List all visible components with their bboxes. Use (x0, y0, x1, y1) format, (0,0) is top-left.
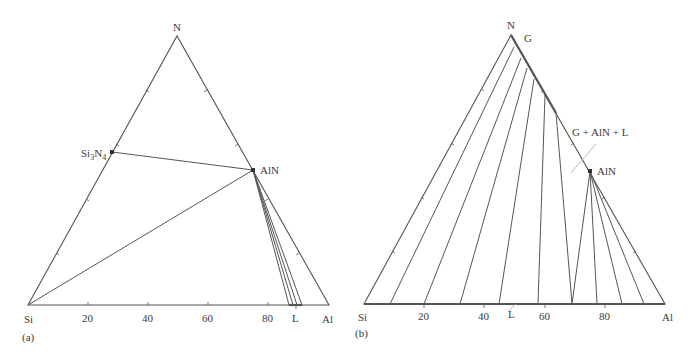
gas-label: G (524, 32, 532, 44)
tie-line-si-aln (28, 170, 253, 305)
axis-tick-label-40-a: 40 (142, 312, 154, 324)
axis-tick-label-60-a: 60 (202, 312, 214, 324)
axis-tick-label-20-b: 20 (418, 310, 430, 322)
axis-tick-label-80-b: 80 (599, 310, 611, 322)
tie-line-aln-l (253, 170, 293, 305)
ternary-diagrams: N Si Al 20 40 60 80 L Si3N4 AlN (a) (0, 0, 693, 354)
tie-line-si3n4-aln (112, 152, 253, 170)
vertex-label-n-b: N (507, 19, 515, 31)
tie-line-g-l (424, 58, 521, 304)
tick-right-a (296, 253, 299, 255)
aln-point-a (251, 168, 255, 172)
panel-caption-a: (a) (22, 331, 35, 344)
tick-right-a (204, 90, 207, 92)
vertex-label-si-a: Si (24, 313, 33, 325)
tick-right-a (265, 199, 268, 201)
liquid-label-b: L (508, 308, 515, 320)
axis-tick-label-60-b: 60 (539, 310, 551, 322)
panel-caption-b: (b) (355, 327, 368, 340)
panel-a: N Si Al 20 40 60 80 L Si3N4 AlN (a) (22, 21, 333, 344)
vertex-label-si-b: Si (358, 311, 367, 323)
tie-line-aln-l (572, 171, 590, 304)
panel-b: N G G + AlN + L AlN Si Al 20 40 60 80 L … (355, 19, 673, 340)
tie-line-g-l (556, 113, 572, 304)
three-phase-leader (571, 144, 596, 173)
tie-line-aln-l (590, 171, 597, 304)
tie-line-aln-l (253, 170, 289, 305)
si3n4-label: Si3N4 (81, 147, 106, 162)
vertex-label-al-b: Al (662, 311, 673, 323)
tie-line-g-l (538, 95, 545, 304)
tick-right-a (235, 144, 238, 146)
axis-tick-label-20-a: 20 (82, 312, 94, 324)
axis-tick-label-40-b: 40 (478, 310, 490, 322)
tie-line-g-l (499, 79, 534, 304)
tie-line-g-l (390, 47, 514, 304)
vertex-label-n-a: N (173, 21, 181, 33)
aln-label-a: AlN (260, 164, 279, 176)
aln-label-b: AlN (597, 165, 616, 177)
axis-tick-label-80-a: 80 (262, 312, 274, 324)
vertex-label-al-a: Al (322, 313, 333, 325)
tie-line-aln-l (253, 170, 302, 305)
aln-point-b (588, 169, 592, 173)
si3n4-point (110, 150, 114, 154)
liquid-label-a: L (292, 312, 299, 324)
three-phase-label: G + AlN + L (572, 126, 629, 138)
